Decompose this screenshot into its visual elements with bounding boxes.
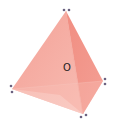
vertex-dot bbox=[80, 116, 83, 119]
tetrahedron-diagram: O bbox=[0, 0, 116, 124]
vertex-dot bbox=[10, 85, 13, 88]
vertex-dot bbox=[63, 9, 66, 12]
vertex-dot bbox=[68, 9, 71, 12]
vertex-marker-right bbox=[104, 78, 107, 86]
vertex-marker-bottom bbox=[80, 114, 88, 119]
center-label: O bbox=[63, 62, 71, 73]
vertex-marker-apex bbox=[63, 9, 71, 12]
vertex-dot bbox=[104, 83, 107, 86]
vertex-dot bbox=[85, 114, 88, 117]
vertex-dot bbox=[11, 91, 14, 94]
vertex-dot bbox=[104, 78, 107, 81]
